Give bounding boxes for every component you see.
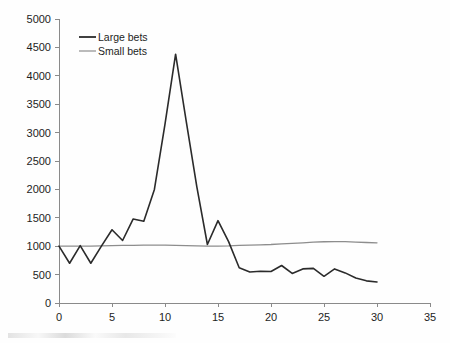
y-axis-tick-labels: 0500100015002000250030003500400045005000	[27, 13, 51, 309]
y-tick-label: 4500	[27, 41, 51, 53]
y-tick-label: 5000	[27, 13, 51, 25]
x-tick-label: 35	[424, 311, 436, 323]
y-tick-label: 500	[33, 269, 51, 281]
y-axis-tick-marks	[55, 19, 59, 303]
chart-legend: Large bets Small bets	[79, 31, 148, 57]
x-tick-label: 25	[318, 311, 330, 323]
x-axis-tick-labels: 05101520253035	[56, 311, 436, 323]
series-line-small-bets	[59, 242, 377, 247]
y-tick-label: 1000	[27, 240, 51, 252]
y-tick-label: 1500	[27, 212, 51, 224]
scan-artifact	[8, 333, 176, 338]
line-chart: 0500100015002000250030003500400045005000…	[0, 0, 450, 343]
x-tick-label: 5	[109, 311, 115, 323]
x-tick-label: 15	[212, 311, 224, 323]
legend-label-small-bets: Small bets	[98, 45, 147, 57]
y-tick-label: 4000	[27, 70, 51, 82]
chart-container: 0500100015002000250030003500400045005000…	[0, 0, 450, 343]
x-tick-label: 20	[265, 311, 277, 323]
x-axis-tick-marks	[59, 303, 430, 307]
legend-label-large-bets: Large bets	[98, 31, 148, 43]
x-tick-label: 10	[159, 311, 171, 323]
y-tick-label: 2000	[27, 183, 51, 195]
x-tick-label: 0	[56, 311, 62, 323]
x-tick-label: 30	[371, 311, 383, 323]
y-tick-label: 3000	[27, 127, 51, 139]
y-tick-label: 2500	[27, 155, 51, 167]
y-tick-label: 0	[45, 297, 51, 309]
series-line-large-bets	[59, 54, 377, 282]
y-tick-label: 3500	[27, 98, 51, 110]
